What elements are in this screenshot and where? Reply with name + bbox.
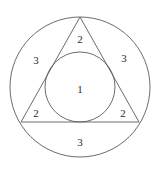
region-label-top-2: 2 (73, 34, 87, 45)
region-label-bottom-3: 3 (73, 137, 87, 148)
region-label-bottom-right-2: 2 (116, 108, 130, 119)
geometric-figure: 1 2 2 2 3 3 3 (0, 0, 161, 170)
region-label-bottom-left-2: 2 (29, 108, 43, 119)
region-label-right-3: 3 (117, 53, 131, 64)
region-label-left-3: 3 (29, 55, 43, 66)
region-label-center-1: 1 (73, 84, 87, 95)
